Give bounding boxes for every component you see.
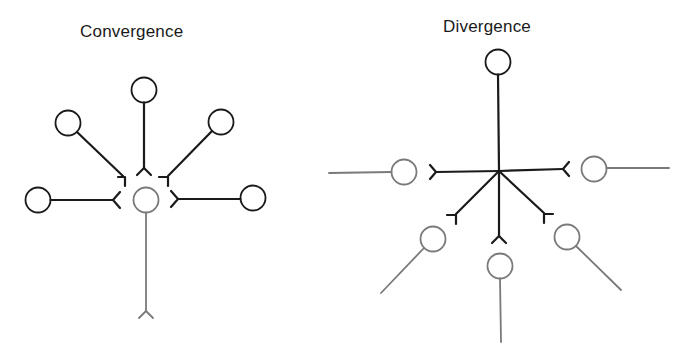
presynaptic-neuron-upper-left <box>56 111 126 187</box>
presynaptic-neuron-left <box>26 188 121 213</box>
neural-circuit-diagram <box>0 0 688 362</box>
convergence-diagram <box>26 78 266 319</box>
postsynaptic-neuron-bottom <box>488 254 513 343</box>
postsynaptic-neuron-lower-right <box>555 225 622 291</box>
postsynaptic-neuron-right <box>582 157 670 182</box>
presynaptic-neuron <box>430 50 569 244</box>
postsynaptic-neuron-center <box>134 188 159 319</box>
presynaptic-neuron-upper-right <box>159 110 234 187</box>
postsynaptic-neuron-lower-left <box>381 227 446 294</box>
postsynaptic-neuron-left <box>329 160 417 185</box>
presynaptic-neuron-right <box>171 186 266 211</box>
presynaptic-neuron-top <box>132 78 157 176</box>
divergence-diagram <box>329 50 669 343</box>
